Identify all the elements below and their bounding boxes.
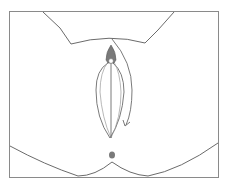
upper-contour-curve [43,12,174,44]
bottom-dot-marker [109,152,115,159]
top-marker-ring [109,59,114,64]
diagram-canvas [0,0,227,191]
lower-contour-curve [10,143,218,176]
curved-direction-arrow [112,39,132,125]
anatomical-diagram [0,0,227,191]
outer-oval-outline [96,63,124,138]
